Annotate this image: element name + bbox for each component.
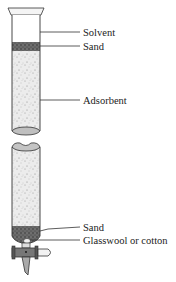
stopcock — [12, 243, 51, 275]
stopcock-handle[interactable] — [38, 249, 51, 256]
drip-tip — [22, 257, 30, 275]
upper-column — [12, 15, 40, 135]
solvent-layer — [12, 15, 40, 42]
break-ellipse-upper — [12, 127, 40, 135]
label-sand-bottom: Sand — [83, 222, 105, 233]
adsorbent-layer-upper — [12, 51, 40, 130]
label-adsorbent: Adsorbent — [83, 95, 127, 106]
sand-layer-bottom — [12, 226, 40, 236]
label-solvent: Solvent — [83, 27, 115, 38]
adsorbent-layer-lower — [12, 146, 40, 226]
leader-sand-bottom — [40, 229, 48, 231]
label-sand-top: Sand — [83, 41, 105, 52]
sand-layer-top — [12, 42, 40, 51]
chromatography-column-diagram: Solvent Sand Adsorbent Sand Glasswool or… — [0, 0, 176, 282]
column-top-flange — [8, 8, 44, 15]
label-glasswool: Glasswool or cotton — [83, 235, 168, 246]
break-ellipse-lower — [12, 143, 40, 151]
lower-column — [12, 143, 40, 244]
